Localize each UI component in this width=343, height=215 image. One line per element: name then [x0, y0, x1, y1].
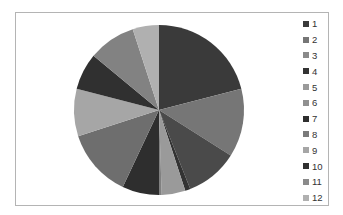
- legend-item: 12: [303, 190, 333, 206]
- legend-item: 2: [303, 32, 333, 48]
- legend-swatch-icon: [303, 100, 309, 106]
- legend-item: 11: [303, 174, 333, 190]
- legend-item: 6: [303, 95, 333, 111]
- legend-item: 3: [303, 48, 333, 64]
- legend-label: 8: [312, 129, 317, 140]
- legend-item: 8: [303, 127, 333, 143]
- legend-item: 4: [303, 63, 333, 79]
- legend-label: 10: [312, 161, 323, 172]
- legend-swatch-icon: [303, 195, 309, 201]
- legend-label: 3: [312, 50, 317, 61]
- pie-chart: [0, 0, 343, 215]
- legend-label: 1: [312, 18, 317, 29]
- legend-swatch-icon: [303, 21, 309, 27]
- legend-swatch-icon: [303, 116, 309, 122]
- legend-label: 5: [312, 82, 317, 93]
- legend-item: 5: [303, 79, 333, 95]
- legend-label: 12: [312, 192, 323, 203]
- legend-swatch-icon: [303, 37, 309, 43]
- legend-item: 10: [303, 158, 333, 174]
- legend-swatch-icon: [303, 68, 309, 74]
- legend-label: 4: [312, 66, 317, 77]
- legend-label: 9: [312, 145, 317, 156]
- legend: 1 2 3 4 5 6 7 8 9 10 11 12: [303, 16, 333, 206]
- legend-item: 1: [303, 16, 333, 32]
- legend-label: 2: [312, 34, 317, 45]
- legend-swatch-icon: [303, 179, 309, 185]
- legend-swatch-icon: [303, 147, 309, 153]
- legend-swatch-icon: [303, 131, 309, 137]
- legend-swatch-icon: [303, 84, 309, 90]
- legend-label: 7: [312, 113, 317, 124]
- legend-label: 6: [312, 97, 317, 108]
- legend-swatch-icon: [303, 52, 309, 58]
- legend-item: 7: [303, 111, 333, 127]
- legend-swatch-icon: [303, 163, 309, 169]
- legend-item: 9: [303, 142, 333, 158]
- legend-label: 11: [312, 176, 322, 187]
